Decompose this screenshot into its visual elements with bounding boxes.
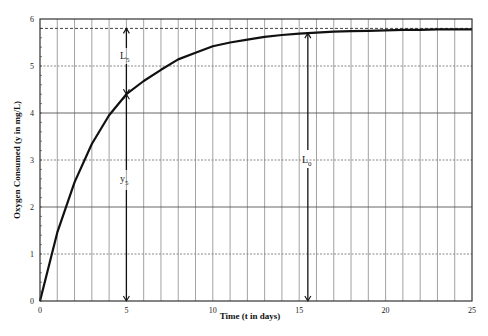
y-tick-label: 6 [30,15,34,24]
x-tick-label: 15 [295,306,303,315]
y-tick-label: 5 [30,62,34,71]
label-L0: L0 [302,154,312,168]
x-tick-label: 10 [209,306,217,315]
bod-curve [40,29,472,301]
y-tick-label: 1 [30,250,34,259]
svg-text:y5: y5 [120,173,129,187]
x-tick-label: 5 [124,306,128,315]
annotation-arrow-y5 [123,94,129,301]
x-tick-label: 0 [38,306,42,315]
y-tick-label: 4 [30,109,34,118]
y-tick-label: 2 [30,203,34,212]
svg-text:L0: L0 [302,154,312,168]
bod-chart: 0123456 0510152025 Time (t in days) Oxyg… [0,0,488,336]
svg-text:L5: L5 [120,50,130,64]
label-L5: L5 [120,50,130,64]
x-axis-title: Time (t in days) [220,311,281,321]
annotations [123,28,310,301]
x-tick-label: 20 [382,306,390,315]
x-tick-label: 25 [468,306,476,315]
y-tick-label: 0 [30,297,34,306]
y-axis-title: Oxygen Consumed (y in mg/L) [12,101,22,219]
y-tick-label: 3 [30,156,34,165]
label-y5: y5 [120,173,129,187]
grid-lines [40,19,472,301]
